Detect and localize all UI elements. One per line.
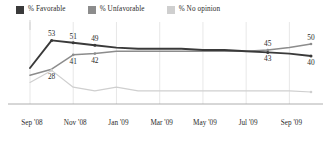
svg-text:40: 40 <box>307 58 315 67</box>
chart-data-points <box>50 39 312 93</box>
svg-text:43: 43 <box>264 54 272 63</box>
legend-item-no-opinion[interactable]: % No opinion <box>167 6 221 14</box>
legend-swatch-no-opinion <box>167 6 175 14</box>
svg-text:50: 50 <box>307 33 315 42</box>
chart-x-axis-labels: Sep '08 Nov '08 Jan '09 Mar '09 May '09 … <box>0 115 331 143</box>
svg-text:42: 42 <box>91 56 99 65</box>
x-tick-6: Sep '09 <box>281 119 302 127</box>
x-tick-5: Jul '09 <box>239 119 258 127</box>
svg-text:45: 45 <box>264 39 272 48</box>
legend-label-favorable: % Favorable <box>28 6 66 13</box>
chart-svg: 53514943404142455028 <box>0 20 331 115</box>
svg-text:41: 41 <box>70 57 78 66</box>
svg-text:28: 28 <box>48 72 56 81</box>
chart-series-lines <box>30 40 311 92</box>
legend-label-unfavorable: % Unfavorable <box>100 6 145 13</box>
chart-value-labels: 53514943404142455028 <box>48 29 315 81</box>
x-tick-0: Sep '08 <box>21 119 42 127</box>
svg-text:53: 53 <box>48 29 56 38</box>
legend-label-no-opinion: % No opinion <box>179 6 221 13</box>
chart-plot-area: 53514943404142455028 <box>0 20 331 115</box>
legend-swatch-unfavorable <box>88 6 96 14</box>
svg-text:51: 51 <box>70 32 78 41</box>
legend-item-favorable[interactable]: % Favorable <box>16 6 66 14</box>
x-tick-1: Nov '08 <box>64 119 87 127</box>
x-tick-2: Jan '09 <box>108 119 128 127</box>
legend-item-unfavorable[interactable]: % Unfavorable <box>88 6 145 14</box>
legend-swatch-favorable <box>16 6 24 14</box>
x-tick-3: Mar '09 <box>150 119 173 127</box>
svg-text:49: 49 <box>91 34 99 43</box>
chart-legend: % Favorable % Unfavorable % No opinion <box>0 0 331 20</box>
favorability-line-chart: % Favorable % Unfavorable % No opinion 5… <box>0 0 331 143</box>
x-tick-4: May '09 <box>193 119 217 127</box>
